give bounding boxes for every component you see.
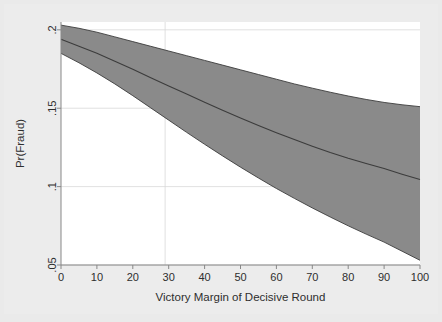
x-tick-label: 70: [306, 271, 318, 283]
y-tick-label: .1: [46, 182, 58, 191]
x-axis-ticks: 0102030405060708090100: [58, 265, 429, 283]
x-tick-label: 0: [58, 271, 64, 283]
x-tick-label: 40: [198, 271, 210, 283]
figure-container: .05.1.15.2 0102030405060708090100 Pr(Fra…: [0, 0, 442, 322]
x-tick-label: 80: [342, 271, 354, 283]
chart-svg: .05.1.15.2 0102030405060708090100 Pr(Fra…: [0, 0, 442, 322]
x-tick-label: 50: [234, 271, 246, 283]
x-axis-title: Victory Margin of Decisive Round: [156, 291, 326, 303]
y-tick-label: .05: [46, 257, 58, 272]
x-tick-label: 10: [91, 271, 103, 283]
x-tick-label: 20: [127, 271, 139, 283]
y-axis-ticks: .05.1.15.2: [46, 25, 61, 272]
x-tick-label: 100: [411, 271, 429, 283]
x-tick-label: 90: [378, 271, 390, 283]
y-tick-label: .15: [46, 101, 58, 116]
y-tick-label: .2: [46, 25, 58, 34]
x-tick-label: 30: [163, 271, 175, 283]
x-tick-label: 60: [270, 271, 282, 283]
y-axis-title: Pr(Fraud): [14, 119, 26, 168]
